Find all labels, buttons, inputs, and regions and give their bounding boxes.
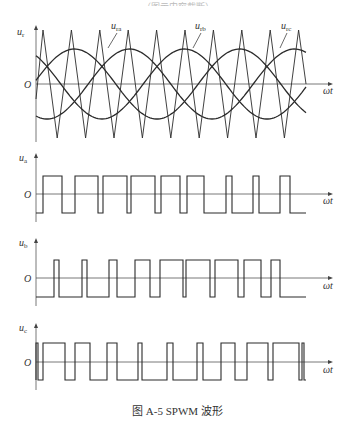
origin-label-2: O [24, 190, 31, 200]
y-axis-arrow-icon [34, 323, 38, 328]
y-axis-label-ur: ur [17, 27, 24, 39]
y-axis-arrow-icon [34, 25, 38, 30]
figure-caption: 图 A-5 SPWM 波形 [0, 402, 355, 418]
origin-label-4: O [24, 358, 31, 368]
origin-label-3: O [24, 274, 31, 284]
y-axis-arrow-icon [34, 153, 38, 158]
x-axis-label-1: ωt [323, 86, 333, 96]
y-axis-arrow-icon [34, 238, 38, 243]
pwm-waveform-ub [36, 260, 306, 297]
pwm-waveform-uc [36, 343, 306, 380]
x-axis-label-4: ωt [323, 365, 333, 375]
x-axis-label-2: ωt [323, 196, 333, 206]
y-axis-label-ub: ub [19, 238, 28, 250]
curve-label-urc: urc [281, 21, 291, 33]
curve-label-ura: ura [111, 21, 121, 33]
leader-urc [280, 33, 287, 48]
origin-label-1: O [24, 80, 31, 90]
leader-urb [193, 33, 201, 48]
x-axis-label-3: ωt [323, 281, 333, 291]
spwm-figure [0, 0, 355, 426]
pwm-waveform-ua [36, 176, 306, 213]
y-axis-label-ua: ua [19, 153, 27, 165]
y-axis-label-uc: uc [19, 323, 27, 335]
leader-ura [108, 33, 117, 48]
curve-label-urb: urb [195, 21, 206, 33]
